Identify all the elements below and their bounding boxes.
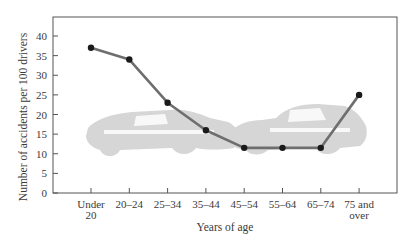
x-tick-label: 65–74: [307, 198, 335, 210]
y-tick-label: 30: [36, 69, 48, 81]
axes: [53, 17, 397, 193]
y-tick-label: 5: [42, 167, 48, 179]
y-tick-label: 15: [36, 128, 48, 140]
y-tick-label: 35: [36, 50, 48, 62]
y-tick-label: 10: [36, 148, 48, 160]
x-axis-title: Years of age: [197, 221, 254, 234]
accident-rate-chart: 0510152025303540Under2020–2425–3435–4445…: [0, 0, 413, 242]
y-tick-label: 40: [36, 30, 48, 42]
data-point: [203, 127, 209, 133]
x-tick-label: 25–34: [154, 198, 182, 210]
x-tick-label: 45–54: [230, 198, 258, 210]
x-tick-label: 20: [86, 209, 98, 221]
y-tick-label: 20: [36, 109, 48, 121]
data-point: [126, 56, 132, 62]
x-tick-label: 35–44: [192, 198, 220, 210]
data-point: [279, 145, 285, 151]
y-axis-title: Number of accidents per 100 drivers: [17, 32, 30, 201]
data-point: [356, 92, 362, 98]
x-tick-label: 20–24: [116, 198, 144, 210]
x-tick-label: 55–64: [269, 198, 297, 210]
data-point: [88, 45, 94, 51]
data-point: [318, 145, 324, 151]
data-point: [164, 100, 170, 106]
y-tick-label: 25: [36, 89, 48, 101]
x-tick-label: over: [349, 209, 369, 221]
car-crash-illustration-icon: [86, 104, 367, 156]
y-tick-label: 0: [42, 187, 48, 199]
plot-frame: [53, 17, 397, 193]
data-point: [241, 145, 247, 151]
